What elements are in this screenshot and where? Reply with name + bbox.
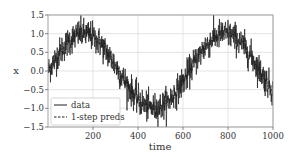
legend-label-preds: 1-step preds: [71, 112, 125, 122]
y-tick-label: 0.0: [30, 66, 44, 76]
y-tick-label: 1.0: [30, 29, 44, 39]
x-tick-label: 400: [130, 131, 146, 141]
chart-figure: −1.5−1.0−0.50.00.51.01.5 200400600800100…: [0, 0, 297, 157]
y-tick-label: 0.5: [30, 47, 44, 57]
y-tick-label: −1.0: [23, 103, 44, 113]
x-tick-label: 1000: [262, 131, 284, 141]
y-tick-label: 1.5: [30, 10, 44, 20]
y-tick-label: −1.5: [23, 122, 44, 132]
x-tick-label: 200: [85, 131, 101, 141]
legend-label-data: data: [71, 100, 90, 110]
y-axis-label: x: [13, 65, 19, 76]
y-tick-label: −0.5: [23, 85, 44, 95]
x-axis-label: time: [149, 141, 172, 152]
legend: data 1-step preds: [51, 98, 125, 125]
x-tick-label: 800: [220, 131, 236, 141]
figure-background: [0, 0, 297, 157]
x-tick-label: 600: [175, 131, 191, 141]
